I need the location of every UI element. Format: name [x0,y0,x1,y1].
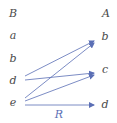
left-element-b: b [9,53,16,65]
relation-label: R [55,109,63,121]
left-element-e: e [10,97,17,109]
right-element-c: c [102,64,108,76]
left-element-a: a [10,30,17,42]
right-element-b: b [101,31,108,43]
left-set-title: B [9,8,17,20]
right-set-title: A [102,8,110,20]
arrows-layer [0,0,117,123]
left-element-d: d [9,75,16,87]
right-element-d: d [101,99,108,111]
relation-diagram: B a b d e A b c d R [0,0,117,123]
